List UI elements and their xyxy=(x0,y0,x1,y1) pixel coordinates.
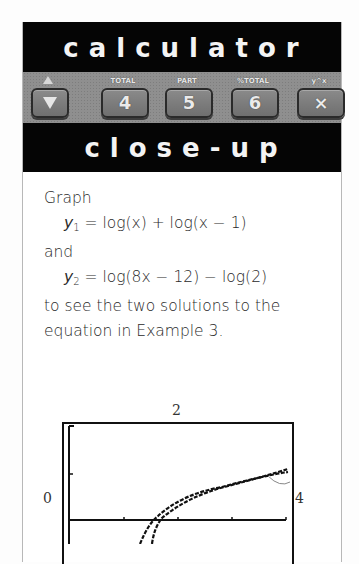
key-4: TOTAL 4 xyxy=(99,72,147,123)
keycap-5: 5 xyxy=(165,88,213,118)
multiply-icon: × xyxy=(297,88,345,118)
key-label-percent-total: %TOTAL xyxy=(229,77,277,85)
arrow-key xyxy=(27,72,75,123)
arrow-up-icon xyxy=(43,76,53,84)
graph-plot-icon xyxy=(62,424,294,544)
keycap-4: 4 xyxy=(101,88,149,118)
connector-text: and xyxy=(44,240,341,265)
arrow-down-keycap xyxy=(31,88,69,118)
y-max-label: 2 xyxy=(172,402,181,418)
equation-y1: y1 = log(x) + log(x − 1) xyxy=(44,211,341,240)
keycap-6: 6 xyxy=(231,88,279,118)
calculator-graph: 2 0 4 xyxy=(22,380,340,544)
key-multiply: y^x × xyxy=(295,72,343,123)
key-6: %TOTAL 6 xyxy=(229,72,277,123)
calculator-keypad-strip: TOTAL 4 PART 5 %TOTAL 6 y^x × xyxy=(23,72,341,123)
x-max-label: 4 xyxy=(295,490,304,506)
x-min-label: 0 xyxy=(43,490,52,506)
arrow-down-icon xyxy=(43,97,57,109)
key-label-power: y^x xyxy=(295,77,343,85)
intro-text: Graph xyxy=(44,186,341,211)
header-title: calculator xyxy=(23,22,341,72)
equation-y2: y2 = log(8x − 12) − log(2) xyxy=(44,265,341,294)
description-line-2: equation in Example 3. xyxy=(44,319,341,344)
description-line-1: to see the two solutions to the xyxy=(44,294,341,319)
header-subtitle: close-up xyxy=(23,123,341,172)
key-label-part: PART xyxy=(163,77,211,85)
instruction-text: Graph y1 = log(x) + log(x − 1) and y2 = … xyxy=(23,172,341,344)
key-label-total: TOTAL xyxy=(99,77,147,85)
key-5: PART 5 xyxy=(163,72,211,123)
